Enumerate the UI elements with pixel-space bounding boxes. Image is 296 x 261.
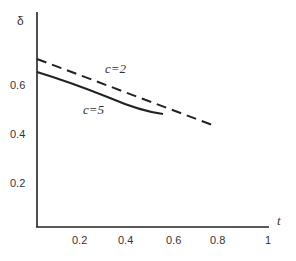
y-tick: 0.6 xyxy=(10,79,25,91)
x-axis-label: t xyxy=(277,213,281,229)
x-tick: 1 xyxy=(265,234,271,246)
x-tick: 0.2 xyxy=(72,234,87,246)
x-tick: 0.4 xyxy=(118,234,133,246)
x-tick: 0.6 xyxy=(166,234,181,246)
chart-canvas xyxy=(0,0,296,261)
series-label-c2: c=2 xyxy=(105,61,126,77)
y-tick: 0.4 xyxy=(10,128,25,140)
y-axis-label: δ xyxy=(17,14,24,28)
series-label-c5: c=5 xyxy=(83,102,104,118)
y-tick: 0.2 xyxy=(10,177,25,189)
x-tick: 0.8 xyxy=(210,234,225,246)
